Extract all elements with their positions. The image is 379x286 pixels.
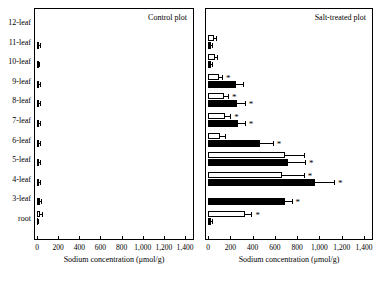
x-tick-200 (58, 236, 59, 239)
x-tick-0 (208, 236, 209, 239)
errorbar-solid-3-leaf (285, 201, 292, 202)
errorbar-solid-4-leaf (315, 182, 334, 183)
errorbar-open-5-leaf (285, 155, 304, 156)
bar-open-10-leaf (208, 54, 215, 60)
x-ticklabel-0: 0 (206, 243, 210, 252)
errorcap-open-11-leaf (216, 36, 217, 41)
errorcap-solid-3-leaf (41, 199, 42, 204)
x-tick-200 (230, 236, 231, 239)
x-ticklabel-1,000: 1,000 (311, 243, 328, 252)
errorcap-solid-7-leaf (40, 121, 41, 126)
significance-star-solid-6-leaf: * (277, 139, 282, 148)
category-label-root: root (18, 214, 31, 223)
x-tick-1,000 (143, 236, 144, 239)
significance-star-solid-8-leaf: * (249, 100, 254, 109)
errorbar-open-4-leaf (282, 175, 304, 176)
bar-solid-7-leaf (208, 120, 238, 127)
bar-open-6-leaf (208, 133, 220, 139)
errorbar-solid-5-leaf (288, 162, 305, 163)
bar-solid-4-leaf (208, 179, 315, 186)
errorcap-solid-9-leaf (243, 82, 244, 87)
bar-solid-5-leaf (208, 159, 288, 166)
control-plot-panel: Control plot (34, 8, 194, 240)
errorcap-open-5-leaf (304, 153, 305, 158)
salt-plot-panel: *********** Salt-treated plot (205, 8, 373, 240)
bar-solid-6-leaf (208, 140, 260, 147)
bar-open-4-leaf (208, 172, 282, 178)
errorbar-solid-8-leaf (237, 103, 245, 104)
control-plot-title: Control plot (148, 13, 187, 22)
x-ticklabel-200: 200 (225, 243, 236, 252)
x-ticklabel-600: 600 (269, 243, 280, 252)
errorcap-solid-7-leaf (245, 121, 246, 126)
x-axis-title-control: Sodium concentration (μmol/g) (64, 255, 165, 264)
x-ticklabel-1,400: 1,400 (356, 243, 373, 252)
category-label-11-leaf: 11-leaf (9, 37, 31, 46)
x-tick-800 (122, 236, 123, 239)
x-ticklabel-1,000: 1,000 (134, 243, 151, 252)
category-label-3-leaf: 3-leaf (12, 194, 31, 203)
errorcap-solid-4-leaf (40, 180, 41, 185)
x-tick-1,400 (364, 236, 365, 239)
bar-solid-9-leaf (208, 81, 236, 88)
control-plot-area (35, 9, 193, 239)
category-label-8-leaf: 8-leaf (12, 96, 31, 105)
chart-figure: 12-leaf11-leaf10-leaf9-leaf8-leaf7-leaf6… (0, 0, 379, 286)
errorcap-solid-root (38, 219, 39, 224)
significance-star-solid-7-leaf: * (249, 120, 254, 129)
x-ticklabel-800: 800 (292, 243, 303, 252)
errorcap-solid-5-leaf (40, 160, 41, 165)
errorbar-solid-7-leaf (238, 123, 245, 124)
category-label-10-leaf: 10-leaf (8, 57, 31, 66)
errorcap-solid-8-leaf (40, 101, 41, 106)
errorbar-solid-6-leaf (260, 143, 272, 144)
x-ticklabel-1,400: 1,400 (177, 243, 194, 252)
errorcap-solid-6-leaf (40, 141, 41, 146)
errorcap-solid-5-leaf (305, 160, 306, 165)
x-tick-0 (37, 236, 38, 239)
category-label-6-leaf: 6-leaf (12, 135, 31, 144)
bar-open-7-leaf (208, 113, 225, 119)
errorcap-open-6-leaf (225, 134, 226, 139)
errorcap-solid-6-leaf (273, 141, 274, 146)
x-ticklabel-0: 0 (35, 243, 39, 252)
x-ticklabel-800: 800 (116, 243, 127, 252)
errorcap-solid-11-leaf (40, 43, 41, 48)
errorcap-solid-10-leaf (39, 62, 40, 67)
x-ticklabel-400: 400 (247, 243, 258, 252)
x-ticklabel-600: 600 (95, 243, 106, 252)
bar-open-8-leaf (208, 93, 224, 99)
errorbar-open-root (245, 214, 252, 215)
errorcap-open-root (42, 212, 43, 217)
category-label-4-leaf: 4-leaf (12, 174, 31, 183)
category-label-9-leaf: 9-leaf (12, 76, 31, 85)
x-ticklabel-1,200: 1,200 (333, 243, 350, 252)
x-tick-1,200 (342, 236, 343, 239)
errorcap-open-8-leaf (228, 94, 229, 99)
significance-star-solid-4-leaf: * (338, 178, 343, 187)
bar-open-9-leaf (208, 74, 219, 80)
x-ticklabel-400: 400 (74, 243, 85, 252)
errorcap-solid-11-leaf (212, 43, 213, 48)
x-tick-800 (297, 236, 298, 239)
errorcap-solid-root (212, 219, 213, 224)
errorcap-solid-10-leaf (212, 62, 213, 67)
x-tick-600 (275, 236, 276, 239)
errorbar-solid-9-leaf (236, 84, 243, 85)
errorcap-open-4-leaf (304, 173, 305, 178)
x-tick-400 (79, 236, 80, 239)
x-tick-600 (100, 236, 101, 239)
x-ticklabel-200: 200 (53, 243, 64, 252)
errorcap-open-7-leaf (230, 114, 231, 119)
category-label-5-leaf: 5-leaf (12, 155, 31, 164)
category-label-12-leaf: 12-leaf (8, 18, 31, 27)
significance-star-solid-5-leaf: * (309, 159, 314, 168)
x-tick-400 (253, 236, 254, 239)
significance-star-solid-3-leaf: * (296, 198, 301, 207)
errorcap-open-10-leaf (217, 55, 218, 60)
x-tick-1,200 (164, 236, 165, 239)
x-axis-title-salt-treated: Sodium concentration (μmol/g) (239, 255, 340, 264)
bar-open-root (208, 211, 245, 217)
bar-solid-8-leaf (208, 100, 237, 107)
errorcap-open-root (251, 212, 252, 217)
